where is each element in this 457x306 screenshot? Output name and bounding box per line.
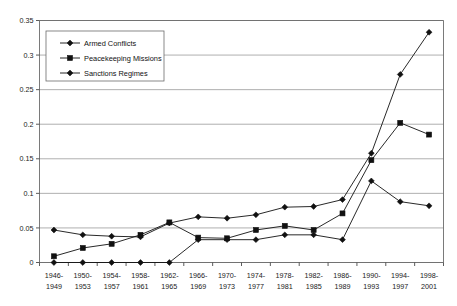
- data-point-s2-8: [282, 223, 287, 228]
- legend-label-3: Sanctions Regimes: [84, 69, 148, 78]
- data-point-s2-11: [369, 158, 374, 163]
- data-point-s1-8: [282, 204, 288, 210]
- y-axis-tick-label: 0.3: [24, 51, 34, 60]
- x-axis-tick-label-bottom: 1997: [392, 282, 408, 291]
- x-axis-tick-label-bottom: 1973: [219, 282, 235, 291]
- data-point-s1-11: [368, 150, 374, 156]
- data-point-s2-12: [398, 120, 403, 125]
- data-point-s2-10: [340, 211, 345, 216]
- x-axis-tick-label-top: 1990-: [362, 271, 381, 280]
- x-axis-tick-label-top: 1994-: [391, 271, 410, 280]
- x-axis-tick-label-top: 1978-: [276, 271, 295, 280]
- x-axis-tick-label-bottom: 2001: [421, 282, 437, 291]
- data-point-s2-2: [109, 241, 114, 246]
- y-axis-tick-label: 0: [30, 258, 34, 267]
- data-point-s3-2: [109, 260, 115, 266]
- x-axis-tick-label-top: 1986-: [333, 271, 352, 280]
- legend-label-1: Armed Conflicts: [84, 39, 136, 48]
- x-axis-tick-label-bottom: 1965: [161, 282, 177, 291]
- data-point-s3-9: [311, 232, 317, 238]
- data-point-s3-8: [282, 232, 288, 238]
- data-point-s1-10: [340, 197, 346, 203]
- x-axis-tick-label-bottom: 1957: [104, 282, 120, 291]
- chart-canvas: 00.050.10.150.20.250.30.35 1946-19491950…: [0, 0, 457, 306]
- data-point-s2-3: [138, 232, 143, 237]
- x-axis-tick-label-bottom: 1949: [46, 282, 62, 291]
- data-point-s3-13: [426, 203, 432, 209]
- x-axis-tick-label-top: 1954-: [102, 271, 121, 280]
- chart-legend: Armed ConflictsPeacekeeping MissionsSanc…: [46, 31, 164, 81]
- y-axis-tick-label: 0.1: [24, 189, 34, 198]
- data-point-s3-1: [80, 260, 86, 266]
- data-point-s3-0: [51, 260, 57, 266]
- x-axis-tick-label-top: 1998-: [420, 271, 439, 280]
- x-axis-tick-label-top: 1950-: [74, 271, 93, 280]
- data-point-s1-2: [109, 233, 115, 239]
- data-point-s2-1: [80, 245, 85, 250]
- x-axis-tick-label-bottom: 1953: [75, 282, 91, 291]
- data-point-s1-13: [426, 29, 432, 35]
- data-point-s3-7: [253, 237, 259, 243]
- data-point-s3-12: [397, 199, 403, 205]
- y-axis-tick-label: 0.35: [20, 16, 34, 25]
- x-axis-tick-label-bottom: 1989: [335, 282, 351, 291]
- data-point-s1-5: [195, 214, 201, 220]
- x-axis-tick-label-top: 1958-: [131, 271, 150, 280]
- data-point-s3-3: [138, 260, 144, 266]
- y-axis: 00.050.10.150.20.250.30.35: [20, 16, 40, 267]
- x-axis-tick-label-top: 1974-: [247, 271, 266, 280]
- x-axis-tick-label-bottom: 1961: [133, 282, 149, 291]
- y-axis-tick-label: 0.05: [20, 224, 34, 233]
- data-point-s1-1: [80, 232, 86, 238]
- data-point-s1-7: [253, 212, 259, 218]
- data-point-s3-10: [340, 237, 346, 243]
- x-axis-tick-label-top: 1970-: [218, 271, 237, 280]
- x-axis-tick-label-bottom: 1969: [190, 282, 206, 291]
- data-point-s2-0: [51, 254, 56, 259]
- x-axis-tick-label-bottom: 1977: [248, 282, 264, 291]
- data-point-s2-4: [167, 220, 172, 225]
- data-point-s1-12: [397, 72, 403, 78]
- y-axis-tick-label: 0.25: [20, 85, 34, 94]
- data-point-s2-7: [253, 228, 258, 233]
- data-point-s2-13: [427, 132, 432, 137]
- x-axis-tick-label-bottom: 1985: [306, 282, 322, 291]
- data-point-s1-9: [311, 204, 317, 210]
- x-axis-tick-label-top: 1962-: [160, 271, 179, 280]
- data-point-s1-6: [224, 215, 230, 221]
- x-axis-tick-label-bottom: 1993: [363, 282, 379, 291]
- line-chart: 00.050.10.150.20.250.30.35 1946-19491950…: [0, 0, 457, 306]
- y-axis-tick-label: 0.15: [20, 154, 34, 163]
- x-axis: 1946-19491950-19531954-19571958-19611962…: [40, 263, 444, 291]
- legend-marker-2: [68, 56, 73, 61]
- y-axis-tick-label: 0.2: [24, 120, 34, 129]
- x-axis-tick-label-bottom: 1981: [277, 282, 293, 291]
- x-axis-tick-label-top: 1982-: [304, 271, 323, 280]
- x-axis-tick-label-top: 1966-: [189, 271, 208, 280]
- x-axis-tick-label-top: 1946-: [45, 271, 64, 280]
- data-point-s3-11: [368, 178, 374, 184]
- legend-label-2: Peacekeeping Missions: [84, 54, 162, 63]
